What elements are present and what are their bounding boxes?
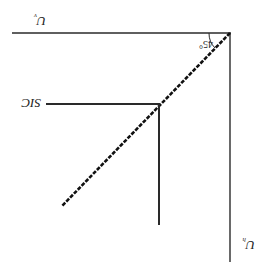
diagram-canvas: U v U h 45° SIC xyxy=(0,0,264,264)
svg-text:v: v xyxy=(33,12,37,20)
svg-text:h: h xyxy=(242,236,246,244)
horizontal-axis-label: U v xyxy=(33,12,46,29)
vertical-axis-label: U h xyxy=(242,236,255,253)
sic-label: SIC xyxy=(21,96,41,111)
utility-diagram: U v U h 45° SIC xyxy=(0,0,264,264)
diagonal-45-line xyxy=(62,33,230,206)
angle-label: 45° xyxy=(199,39,213,50)
svg-text:SIC: SIC xyxy=(21,96,41,111)
svg-text:45°: 45° xyxy=(199,39,213,50)
